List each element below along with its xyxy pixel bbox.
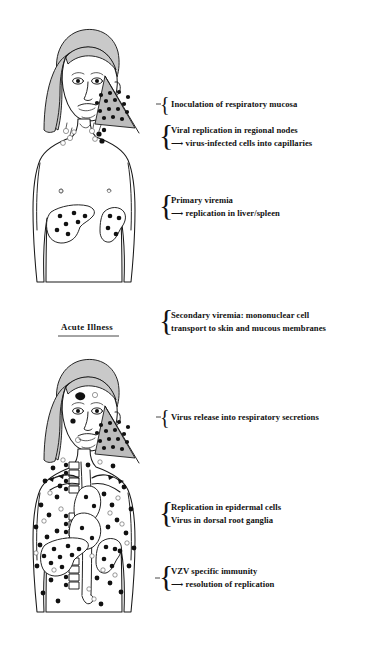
section-label-acute-illness: Acute Illness [61, 322, 113, 332]
annotation-primary-viremia: { Primary viremia ⟶ replication in liver… [159, 188, 280, 221]
annotation-line: Virus release into respiratory secretion… [171, 412, 319, 422]
torso-incubation [33, 119, 135, 282]
annotation-secondary-viremia: { Secondary viremia: mononuclear cell tr… [159, 303, 327, 336]
annotation-vzv-immunity: { VZV specific immunity ⟶ resolution of … [155, 559, 275, 592]
annotation-line: Inoculation of respiratory mucosa [171, 99, 298, 109]
svg-text:{: { [160, 406, 170, 428]
annotation-regional-nodes: { Viral replication in regional nodes ⟶ … [159, 118, 313, 151]
annotation-line: ⟶ replication in liver/spleen [171, 208, 280, 218]
panel-incubation: { Inoculation of respiratory mucosa { Vi… [33, 29, 313, 282]
annotation-line: transport to skin and mucous membranes [171, 323, 327, 333]
panel-acute-illness: Acute Illness [33, 303, 327, 612]
annotation-line: Primary viremia [171, 195, 234, 205]
annotation-virus-release: { Virus release into respiratory secreti… [156, 406, 319, 428]
vzv-pathogenesis-figure: { Inoculation of respiratory mucosa { Vi… [0, 0, 366, 647]
annotation-line: Virus in dorsal root ganglia [171, 515, 274, 525]
annotation-line: ⟶ resolution of replication [171, 579, 275, 589]
svg-text:{: { [160, 93, 170, 115]
annotation-epidermal-ganglia: { Replication in epidermal cells Virus i… [159, 495, 282, 528]
annotation-inoculation: { Inoculation of respiratory mucosa [156, 93, 298, 115]
annotation-line: Secondary viremia: mononuclear cell [171, 310, 310, 320]
annotation-line: Viral replication in regional nodes [171, 125, 298, 135]
annotation-line: VZV specific immunity [171, 566, 258, 576]
annotation-line: ⟶ virus-infected cells into capillaries [171, 138, 313, 148]
annotation-line: Replication in epidermal cells [171, 502, 282, 512]
